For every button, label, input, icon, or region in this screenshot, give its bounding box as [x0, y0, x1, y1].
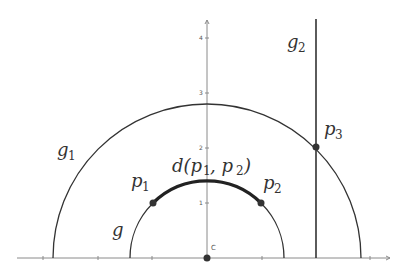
svg-text:2: 2: [236, 164, 244, 178]
point-c: [204, 255, 211, 262]
svg-text:2: 2: [274, 182, 282, 196]
svg-text:1: 1: [142, 180, 150, 194]
y-tick-3: 3: [199, 89, 203, 96]
point-p1: [150, 200, 157, 207]
svg-text:g: g: [57, 139, 69, 160]
label-c: C: [211, 244, 216, 252]
svg-text:): ): [243, 155, 251, 176]
label-p1: p 1: [131, 170, 150, 194]
hyperbolic-geometry-diagram: 1 2 3 4 C g g 1 g 2 p 1 p 2 p 3 d(p 1 , …: [0, 0, 407, 274]
svg-text:3: 3: [335, 128, 343, 142]
point-p3: [313, 144, 320, 151]
label-g: g: [112, 219, 124, 240]
y-tick-1: 1: [199, 199, 203, 206]
svg-text:, p: , p: [210, 155, 233, 176]
svg-text:1: 1: [68, 149, 76, 163]
label-p3: p 3: [324, 118, 343, 142]
y-tick-2: 2: [199, 144, 203, 151]
y-tick-4: 4: [199, 34, 203, 41]
svg-text:g: g: [287, 31, 299, 52]
label-g1: g 1: [57, 139, 76, 163]
label-distance: d(p 1 , p 2 ): [172, 155, 251, 178]
svg-text:d(p: d(p: [172, 155, 203, 176]
point-p2: [258, 200, 265, 207]
label-g2: g 2: [287, 31, 306, 55]
label-p2: p 2: [263, 172, 282, 196]
svg-text:2: 2: [298, 41, 306, 55]
